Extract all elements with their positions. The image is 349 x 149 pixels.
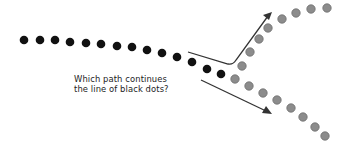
gray-dot — [231, 75, 239, 83]
gray-dot — [255, 35, 263, 43]
black-dot — [188, 58, 197, 67]
black-dot — [66, 38, 75, 47]
gray-dot — [245, 82, 253, 90]
black-dot — [51, 36, 60, 45]
black-dot — [97, 40, 106, 49]
gray-dot — [259, 89, 267, 97]
gray-dot — [311, 123, 319, 131]
gray-dot — [246, 48, 254, 56]
gray-dot — [321, 132, 329, 140]
black-dot — [36, 36, 45, 45]
black-dot — [173, 53, 182, 62]
black-dot — [128, 43, 137, 52]
black-dot — [113, 42, 122, 51]
lower-arrow-line — [201, 80, 266, 111]
question-text: Which path continues the line of black d… — [74, 74, 204, 94]
gray-dot — [307, 5, 315, 13]
lower-gray-dot-path — [231, 75, 329, 140]
upper-gray-dot-path — [238, 4, 331, 70]
arrowhead-icon — [263, 12, 272, 20]
question-line-1: Which path continues — [74, 74, 204, 84]
black-dot — [203, 65, 212, 74]
black-dot — [82, 39, 91, 48]
gray-dot — [273, 96, 281, 104]
gray-dot — [264, 24, 272, 32]
gray-dot — [299, 113, 307, 121]
gray-dot — [278, 15, 286, 23]
gray-dot — [323, 4, 331, 12]
gray-dot — [292, 9, 300, 17]
black-dot — [158, 49, 167, 58]
black-dot — [143, 46, 152, 55]
black-dot-line — [20, 36, 226, 79]
black-dot — [217, 70, 226, 79]
question-line-2: the line of black dots? — [74, 84, 204, 94]
gray-dot — [238, 62, 246, 70]
gray-dot — [287, 104, 295, 112]
dot-path-diagram: Which path continues the line of black d… — [0, 0, 349, 149]
black-dot — [20, 36, 29, 45]
